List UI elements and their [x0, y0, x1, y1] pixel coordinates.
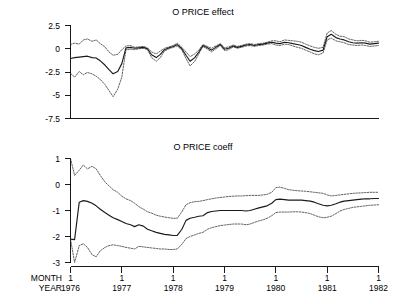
series-group-effect [71, 31, 379, 97]
x-tick-label-month-3: 1 [222, 273, 227, 283]
y-tick-label-effect-0: 2.5 [48, 21, 60, 31]
x-tick-labels-month: 1111111 [68, 273, 381, 283]
series-line-effect-center [71, 34, 379, 74]
x-tick-label-month-5: 1 [325, 273, 330, 283]
x-tick-label-month-2: 1 [171, 273, 176, 283]
x-tick-marks [71, 267, 379, 273]
y-tick-label-effect-2: -2.5 [45, 67, 60, 77]
y-tick-label-effect-4: -7.5 [45, 114, 60, 124]
x-tick-label-year-1979: 1979 [215, 283, 234, 293]
x-tick-label-month-4: 1 [273, 273, 278, 283]
chart-svg: O PRICE effect 2.5 0 -2.5 -5 -7.5 [0, 0, 406, 304]
x-axis-time [71, 267, 379, 273]
x-tick-label-year-1976: 1976 [61, 283, 80, 293]
series-line-coeff-center [71, 199, 379, 240]
panel-o-price-coeff: O PRICE coeff 1 0 -1 -2 -3 [31, 142, 388, 293]
x-tick-label-year-1977: 1977 [112, 283, 131, 293]
series-group-coeff [71, 159, 379, 263]
x-tick-label-year-1981: 1981 [318, 283, 337, 293]
figure-container: O PRICE effect 2.5 0 -2.5 -5 -7.5 [0, 0, 406, 304]
y-tick-label-coeff-0: 1 [55, 154, 60, 164]
x-tick-label-year-1980: 1980 [266, 283, 285, 293]
series-line-coeff-upper [71, 159, 379, 219]
x-tick-label-year-1978: 1978 [164, 283, 183, 293]
y-tick-label-coeff-2: -1 [52, 206, 60, 216]
y-tick-label-coeff-4: -3 [52, 258, 60, 268]
y-axis-coeff: 1 0 -1 -2 -3 [52, 154, 70, 268]
x-tick-label-month-1: 1 [119, 273, 124, 283]
panel-title-coeff: O PRICE coeff [174, 142, 233, 152]
series-line-effect-lower [71, 38, 379, 97]
y-tick-label-effect-1: 0 [55, 44, 60, 54]
series-line-coeff-lower [71, 205, 379, 263]
y-tick-label-coeff-3: -2 [52, 232, 60, 242]
x-tick-label-month-0: 1 [68, 273, 73, 283]
axis-row-label-month: MONTH [31, 273, 62, 283]
y-tick-label-effect-3: -5 [52, 90, 60, 100]
y-axis-effect: 2.5 0 -2.5 -5 -7.5 [45, 21, 70, 124]
x-tick-label-month-6: 1 [376, 273, 381, 283]
panel-o-price-effect: O PRICE effect 2.5 0 -2.5 -5 -7.5 [45, 7, 378, 124]
x-tick-label-year-1982: 1982 [369, 283, 388, 293]
axis-row-label-year: YEAR [39, 283, 62, 293]
panel-title-effect: O PRICE effect [172, 7, 234, 17]
y-tick-label-coeff-1: 0 [55, 180, 60, 190]
x-tick-labels-year: 1976197719781979198019811982 [61, 283, 388, 293]
